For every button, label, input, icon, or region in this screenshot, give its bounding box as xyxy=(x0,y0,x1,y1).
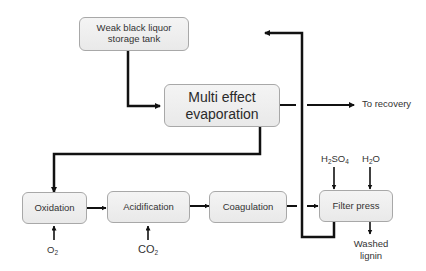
washed-lignin-line1: Washed xyxy=(352,238,390,250)
washed-lignin-line2: lignin xyxy=(352,250,390,262)
label-h2o: H2O xyxy=(362,153,380,166)
node-storage-tank: Weak black liquor storage tank xyxy=(79,17,189,51)
node-evaporation-line1: Multi effect xyxy=(185,89,258,105)
node-oxidation-label: Oxidation xyxy=(34,203,74,214)
label-o2: O2 xyxy=(47,244,58,257)
connector-lines xyxy=(0,0,426,271)
node-acidification: Acidification xyxy=(107,191,190,223)
label-washed-lignin: Washed lignin xyxy=(352,238,390,262)
label-h2so4: H2SO4 xyxy=(321,153,349,166)
h2o-p1: H xyxy=(362,153,369,164)
node-coagulation: Coagulation xyxy=(209,191,287,223)
node-coagulation-label: Coagulation xyxy=(223,202,274,213)
h2so4-s2: 4 xyxy=(345,158,349,165)
node-storage-tank-line2: storage tank xyxy=(97,34,172,45)
h2so4-p2: SO xyxy=(332,153,346,164)
label-co2-base: CO xyxy=(138,243,155,255)
arrow-tank-to-evaporation xyxy=(128,51,160,106)
node-evaporation: Multi effect evaporation xyxy=(164,84,280,127)
node-evaporation-line2: evaporation xyxy=(185,106,258,122)
node-acidification-label: Acidification xyxy=(123,202,174,213)
label-o2-sub: 2 xyxy=(54,249,58,256)
label-to-recovery: To recovery xyxy=(362,98,411,110)
node-oxidation: Oxidation xyxy=(22,192,87,224)
h2o-p2: O xyxy=(373,153,380,164)
node-filter-press-label: Filter press xyxy=(333,201,380,212)
node-filter-press: Filter press xyxy=(319,190,393,222)
arrow-evaporation-to-oxidation xyxy=(54,127,260,192)
process-flow-diagram: Weak black liquor storage tank Multi eff… xyxy=(0,0,426,271)
label-co2: CO2 xyxy=(138,243,158,257)
label-co2-sub: 2 xyxy=(155,249,159,256)
h2so4-p1: H xyxy=(321,153,328,164)
